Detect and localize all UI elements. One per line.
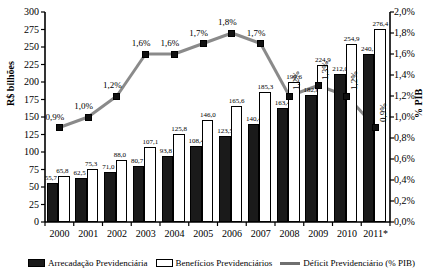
- bar-value-label: 88,0: [114, 152, 126, 159]
- legend-swatch-dark-icon: [28, 259, 45, 267]
- bar-value-label: 254,9: [344, 36, 360, 43]
- bar-beneficios-2007: [259, 92, 271, 222]
- bar-arrecadacao-2011: [363, 54, 375, 222]
- bar-value-label: 55,7: [45, 175, 57, 182]
- bar-value-label: 62,5: [73, 170, 85, 177]
- bar-value-label: 65,8: [56, 168, 68, 175]
- bar-beneficios-2001: [87, 169, 99, 222]
- line-value-label: 1,7%: [247, 29, 266, 38]
- legend-swatch-line-icon: [280, 262, 300, 265]
- legend-item-deficit: Déficit Previdenciário (% PIB): [280, 258, 415, 268]
- bar-arrecadacao-2004: [162, 156, 174, 222]
- bar-beneficios-2004: [173, 134, 185, 222]
- bar-value-label: 185,3: [257, 84, 273, 91]
- bar-arrecadacao-2009: [305, 95, 317, 222]
- line-value-label: 1,2%: [103, 81, 122, 90]
- line-marker-2010: [343, 93, 350, 100]
- bar-value-label: 93,8: [160, 148, 172, 155]
- bar-value-label: 80,7: [131, 158, 143, 165]
- bar-value-label: 107,1: [142, 139, 158, 146]
- line-marker-2002: [113, 93, 120, 100]
- line-value-label: 0,9%: [379, 103, 388, 122]
- line-value-label: 1,3%: [321, 61, 330, 80]
- bar-arrecadacao-2000: [47, 183, 59, 222]
- bar-value-label: 71,0: [102, 164, 114, 171]
- bar-arrecadacao-2002: [104, 172, 116, 222]
- line-marker-2007: [257, 40, 264, 47]
- bar-beneficios-2006: [231, 106, 243, 222]
- legend-item-beneficios: Benefícios Previdenciários: [156, 258, 273, 268]
- line-value-label: 1,6%: [132, 39, 151, 48]
- bar-arrecadacao-2006: [219, 136, 231, 222]
- bar-beneficios-2008: [288, 82, 300, 222]
- legend-label-beneficios: Benefícios Previdenciários: [176, 258, 273, 268]
- legend-swatch-light-icon: [156, 259, 173, 267]
- bar-beneficios-2000: [58, 176, 70, 222]
- bar-value-label: 165,6: [229, 98, 245, 105]
- bar-value-label: 276,4: [372, 21, 388, 28]
- line-value-label: 1,2%: [350, 71, 359, 90]
- chart-container: R$ bilhões % PIB 02550751001251501752002…: [0, 0, 443, 278]
- bar-value-label: 125,8: [171, 126, 187, 133]
- line-marker-2005: [200, 40, 207, 47]
- chart-legend: Arrecadação Previdenciária Benefícios Pr…: [0, 258, 443, 268]
- bar-arrecadacao-2005: [190, 146, 202, 222]
- bar-beneficios-2003: [144, 147, 156, 222]
- bar-arrecadacao-2003: [133, 166, 145, 222]
- line-marker-2009: [315, 82, 322, 89]
- line-value-label: 1,7%: [189, 29, 208, 38]
- line-value-label: 1,0%: [74, 102, 93, 111]
- line-marker-2006: [228, 30, 235, 37]
- bar-arrecadacao-2008: [277, 108, 289, 222]
- line-marker-2000: [56, 124, 63, 131]
- legend-label-arrecadacao: Arrecadação Previdenciária: [48, 258, 148, 268]
- bar-beneficios-2002: [116, 160, 128, 222]
- line-value-label: 1,8%: [218, 18, 237, 27]
- line-marker-2003: [142, 51, 149, 58]
- bar-value-label: 146,0: [200, 112, 216, 119]
- line-value-label: 1,2%: [292, 71, 301, 90]
- bar-beneficios-2005: [202, 120, 214, 222]
- line-marker-2011: [372, 124, 379, 131]
- line-marker-2004: [171, 51, 178, 58]
- line-marker-2008: [286, 93, 293, 100]
- bar-value-label: 75,3: [85, 161, 97, 168]
- bar-arrecadacao-2007: [248, 124, 260, 222]
- bar-arrecadacao-2001: [75, 178, 87, 222]
- legend-label-deficit: Déficit Previdenciário (% PIB): [303, 258, 415, 268]
- legend-item-arrecadacao: Arrecadação Previdenciária: [28, 258, 148, 268]
- line-value-label: 0,9%: [45, 113, 64, 122]
- line-marker-2001: [85, 114, 92, 121]
- line-value-label: 1,6%: [160, 39, 179, 48]
